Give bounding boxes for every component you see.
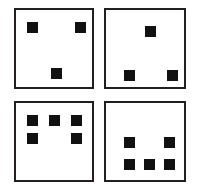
panel-bottom-left: [14, 101, 94, 182]
square-dot: [124, 70, 135, 81]
square-dot: [71, 115, 82, 126]
square-dot: [75, 22, 86, 33]
square-dot: [124, 137, 135, 148]
square-dot: [27, 133, 38, 144]
square-dot: [27, 115, 38, 126]
dot-pattern-figure: [0, 0, 198, 192]
square-dot: [51, 68, 62, 79]
square-dot: [145, 26, 156, 37]
square-dot: [167, 70, 178, 81]
square-dot: [164, 137, 175, 148]
panel-bottom-right: [104, 101, 186, 182]
square-dot: [49, 115, 60, 126]
square-dot: [27, 22, 38, 33]
square-dot: [71, 133, 82, 144]
square-dot: [144, 159, 155, 170]
square-dot: [124, 159, 135, 170]
panel-top-left: [14, 8, 94, 89]
square-dot: [164, 159, 175, 170]
panel-top-right: [104, 8, 186, 89]
